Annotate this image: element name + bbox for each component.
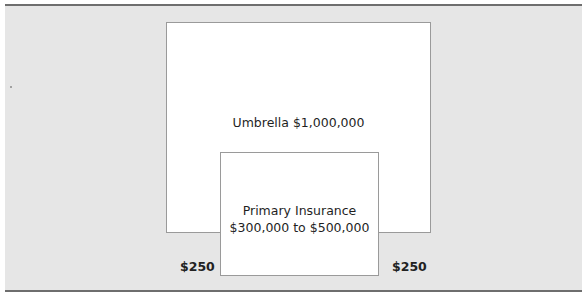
deductible-left-label: $250 (180, 259, 215, 274)
primary-insurance-label: Primary Insurance $300,000 to $500,000 (220, 202, 379, 236)
bottom-divider (5, 290, 582, 292)
primary-insurance-range: $300,000 to $500,000 (220, 219, 379, 236)
scan-artifact (10, 86, 12, 88)
umbrella-coverage-label: Umbrella $1,000,000 (166, 114, 431, 131)
deductible-right-label: $250 (392, 259, 427, 274)
primary-insurance-title: Primary Insurance (220, 202, 379, 219)
